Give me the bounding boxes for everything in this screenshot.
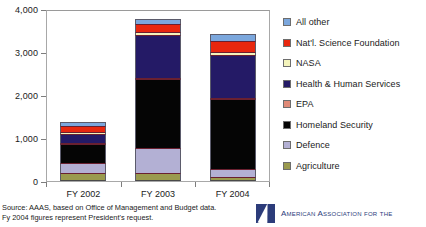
bar-segment (135, 148, 181, 173)
legend-item: Homeland Security (283, 115, 423, 136)
legend-label: EPA (296, 99, 314, 109)
bar-segment (135, 24, 181, 32)
x-tick-mark (269, 182, 270, 187)
bar-segment (60, 163, 106, 174)
legend-swatch-icon (283, 59, 291, 67)
bar-fy-2003 (135, 19, 181, 181)
x-axis: FY 2002FY 2003FY 2004 (46, 182, 270, 204)
legend-swatch-icon (283, 162, 291, 170)
bar-segment (60, 173, 106, 181)
bar-fy-2004 (210, 34, 256, 181)
legend-item: All other (283, 12, 423, 33)
y-tick-label: 3,000 (15, 48, 38, 58)
legend-label: NASA (296, 58, 321, 68)
bar-segment (135, 173, 181, 181)
legend-label: All other (296, 17, 329, 27)
x-tick-mark (46, 182, 47, 187)
y-tick-label: 4,000 (15, 5, 38, 15)
legend-item: Nat'l. Science Foundation (283, 33, 423, 54)
legend-swatch-icon (283, 141, 291, 149)
legend-label: Health & Human Services (296, 79, 400, 89)
bar-segment (210, 55, 256, 98)
x-tick-label: FY 2002 (66, 189, 100, 199)
source-note: Source: AAAS, based on Office of Managem… (2, 203, 216, 222)
chart-figure: 01,0002,0003,0004,000 FY 2002FY 2003FY 2… (0, 0, 426, 227)
x-tick-label: FY 2003 (141, 189, 175, 199)
source-line-1: Source: AAAS, based on Office of Managem… (2, 203, 216, 213)
legend-swatch-icon (283, 18, 291, 26)
bar-segment (135, 35, 181, 78)
legend-swatch-icon (283, 100, 291, 108)
legend-item: Defence (283, 135, 423, 156)
bar-segment (210, 169, 256, 177)
source-line-2: Fy 2004 figures represent President's re… (2, 213, 216, 223)
aaas-logo-text: American Association for the (281, 209, 392, 218)
legend-label: Homeland Security (296, 120, 373, 130)
legend-label: Defence (296, 140, 330, 150)
x-tick-label: FY 2004 (216, 189, 250, 199)
y-tick-label: 1,000 (15, 134, 38, 144)
y-axis: 01,0002,0003,0004,000 (0, 0, 46, 192)
plot-area (46, 10, 270, 182)
x-tick-mark (121, 182, 122, 187)
aaas-logo-mark-icon (256, 204, 275, 223)
y-tick-label: 0 (33, 177, 38, 187)
legend-swatch-icon (283, 121, 291, 129)
y-tick-label: 2,000 (15, 91, 38, 101)
bar-segment (60, 134, 106, 143)
aaas-logo: American Association for the (256, 204, 392, 223)
legend-item: NASA (283, 53, 423, 74)
legend: All otherNat'l. Science FoundationNASAHe… (283, 12, 423, 176)
bar-segment (135, 79, 181, 149)
legend-swatch-icon (283, 39, 291, 47)
legend-label: Agriculture (296, 161, 340, 171)
x-tick-mark (195, 182, 196, 187)
bar-segment (60, 144, 106, 162)
bar-segment (210, 177, 256, 181)
legend-item: Health & Human Services (283, 74, 423, 95)
bar-segment (210, 41, 256, 52)
legend-item: EPA (283, 94, 423, 115)
legend-item: Agriculture (283, 156, 423, 177)
legend-swatch-icon (283, 80, 291, 88)
bar-fy-2002 (60, 122, 106, 181)
legend-label: Nat'l. Science Foundation (296, 38, 400, 48)
bar-segment (210, 34, 256, 41)
bar-segment (210, 99, 256, 169)
